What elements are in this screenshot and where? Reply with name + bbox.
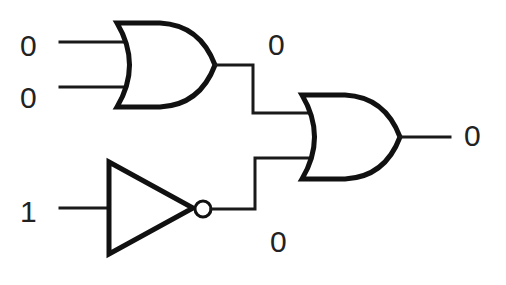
input-a-label: 0 [20, 29, 37, 62]
or1-output-label: 0 [268, 28, 285, 61]
or1-output-wire [215, 65, 312, 113]
not-gate-icon [109, 162, 193, 254]
or-gate-2-icon [302, 95, 400, 179]
input-c-label: 1 [20, 195, 37, 228]
not-bubble-icon [195, 201, 211, 217]
or-gate-1-icon [117, 23, 215, 107]
not-output-label: 0 [270, 225, 287, 258]
final-output-label: 0 [464, 119, 481, 152]
logic-circuit-diagram: 0 0 1 0 0 0 [0, 0, 506, 285]
input-b-label: 0 [20, 81, 37, 114]
not-output-wire [211, 158, 312, 209]
